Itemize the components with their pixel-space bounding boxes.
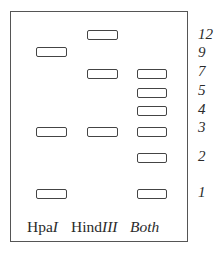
band-both-2 xyxy=(137,153,167,163)
band-hindiii-3 xyxy=(87,127,118,137)
size-label-7: 7 xyxy=(198,64,206,79)
lane-label-hpai-prefix: Hpa xyxy=(27,218,53,235)
band-both-4 xyxy=(137,106,167,116)
lane-label-hindiii: HindIII xyxy=(71,219,118,235)
size-label-1: 1 xyxy=(198,185,206,200)
lane-label-both: Both xyxy=(130,219,159,235)
band-both-3 xyxy=(137,127,167,137)
size-label-12: 12 xyxy=(198,27,213,42)
lane-label-hindiii-prefix: Hind xyxy=(71,218,102,235)
lane-label-hindiii-suffix: III xyxy=(102,218,118,235)
band-hpai-1 xyxy=(36,189,67,199)
band-both-5 xyxy=(137,88,167,98)
size-label-2: 2 xyxy=(198,149,206,164)
band-hpai-9 xyxy=(36,47,67,57)
band-hindiii-12 xyxy=(87,30,118,40)
band-hpai-3 xyxy=(36,127,67,137)
band-hindiii-7 xyxy=(87,69,118,79)
size-label-5: 5 xyxy=(198,83,206,98)
size-label-3: 3 xyxy=(198,120,206,135)
band-both-7 xyxy=(137,69,167,79)
lane-label-hpai: HpaI xyxy=(27,219,58,235)
size-label-9: 9 xyxy=(198,45,206,60)
size-label-4: 4 xyxy=(198,102,206,117)
lane-label-hpai-suffix: I xyxy=(53,218,58,235)
band-both-1 xyxy=(137,189,167,199)
